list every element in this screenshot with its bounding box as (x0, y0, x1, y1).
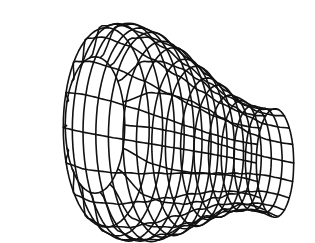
mesh-lines (63, 23, 293, 241)
wireframe-surface (0, 0, 315, 243)
ring-line (83, 23, 175, 241)
